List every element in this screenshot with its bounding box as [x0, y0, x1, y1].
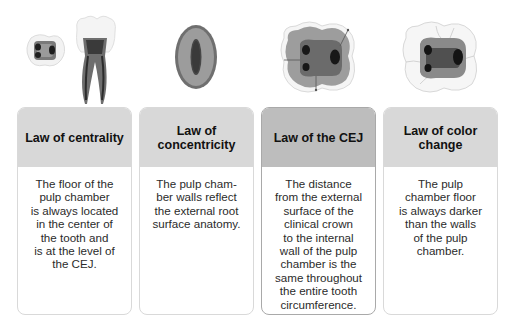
law-card-concentricity: Law of concentricity The pulp cham- ber …: [139, 107, 254, 315]
description-line: than the walls: [390, 217, 491, 230]
description-line: surface anatomy.: [146, 217, 247, 230]
description-line: is always located: [24, 204, 125, 217]
description-line: pulp chamber: [24, 190, 125, 203]
description-line: the tooth and: [24, 231, 125, 244]
card-header: Law of concentricity: [140, 108, 253, 167]
title-line: concentricity: [158, 138, 236, 152]
law-card-color-change: Law of color change The pulp chamber flo…: [383, 107, 498, 315]
description-line: The floor of the: [24, 177, 125, 190]
illustration-concentricity: [139, 0, 254, 104]
description-line: to the internal: [268, 231, 369, 244]
description-line: the external root: [146, 204, 247, 217]
title-line: Law of: [158, 124, 236, 138]
description-line: same throughout: [268, 271, 369, 284]
card-description: The distance from the external surface o…: [262, 167, 375, 311]
law-card-centrality: Law of centrality The floor of the pulp …: [17, 107, 132, 315]
description-line: is always darker: [390, 204, 491, 217]
card-title: Law of color change: [404, 124, 478, 152]
description-line: The pulp cham-: [146, 177, 247, 190]
card-header: Law of the CEJ: [262, 108, 375, 167]
description-line: the entire tooth: [268, 284, 369, 297]
description-line: surface of the: [268, 204, 369, 217]
card-description: The pulp cham- ber walls reflect the ext…: [140, 167, 253, 231]
description-line: in the center of: [24, 217, 125, 230]
illustration-centrality: [17, 0, 132, 104]
card-header: Law of color change: [384, 108, 497, 167]
card-title: Law of centrality: [25, 131, 124, 145]
illustration-cej: [261, 0, 376, 104]
description-line: wall of the pulp: [268, 244, 369, 257]
description-line: from the external: [268, 190, 369, 203]
pulp-floor-color-icon: [383, 0, 498, 104]
title-line: change: [404, 138, 478, 152]
title-line: Law of color: [404, 124, 478, 138]
description-line: The pulp: [390, 177, 491, 190]
card-description: The floor of the pulp chamber is always …: [18, 167, 131, 271]
description-line: of the pulp: [390, 231, 491, 244]
description-line: the CEJ.: [24, 257, 125, 270]
description-line: circumference.: [268, 298, 369, 311]
card-description: The pulp chamber floor is always darker …: [384, 167, 497, 257]
card-title: Law of concentricity: [158, 124, 236, 152]
illustration-color-change: [383, 0, 498, 104]
card-header: Law of centrality: [18, 108, 131, 167]
root-cross-section-icon: [139, 0, 254, 104]
description-line: ber walls reflect: [146, 190, 247, 203]
card-title: Law of the CEJ: [274, 131, 364, 145]
description-line: is at the level of: [24, 244, 125, 257]
description-line: clinical crown: [268, 217, 369, 230]
law-card-cej: Law of the CEJ The distance from the ext…: [261, 107, 376, 315]
description-line: chamber is the: [268, 257, 369, 270]
description-line: The distance: [268, 177, 369, 190]
crown-cross-section-cej-icon: [261, 0, 376, 104]
description-line: chamber floor: [390, 190, 491, 203]
molar-crown-and-root-section-icon: [17, 0, 132, 104]
description-line: chamber.: [390, 244, 491, 257]
